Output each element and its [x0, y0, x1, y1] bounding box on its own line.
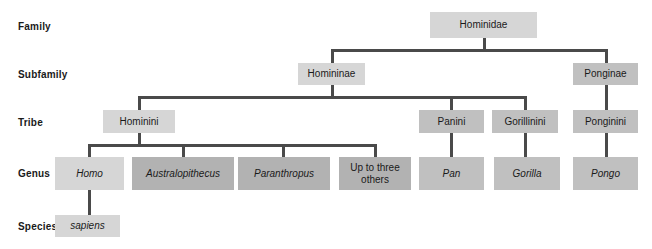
connector-gorillinini-drop — [524, 96, 527, 110]
rank-label-subfamily: Subfamily — [18, 70, 68, 80]
node-pongo[interactable]: Pongo — [573, 157, 638, 190]
node-homo[interactable]: Homo — [55, 157, 124, 190]
node-hominini[interactable]: Hominini — [103, 110, 175, 133]
connector-gorillinini-to-gorilla — [524, 133, 527, 157]
node-gorilla[interactable]: Gorilla — [494, 157, 560, 190]
taxonomy-diagram: Family Subfamily Tribe Genus Species Hom… — [0, 0, 652, 249]
node-sapiens[interactable]: sapiens — [55, 215, 120, 237]
connector-hominini-drop — [138, 96, 141, 110]
rank-label-species: Species — [18, 222, 57, 232]
node-australopithecus[interactable]: Australopithecus — [132, 157, 234, 190]
connector-up-to-three-others-drop — [374, 144, 377, 157]
connector-australopithecus-drop — [182, 144, 185, 157]
node-pan[interactable]: Pan — [419, 157, 484, 190]
node-ponginini[interactable]: Ponginini — [573, 110, 638, 133]
node-ponginae[interactable]: Ponginae — [573, 63, 638, 85]
connector-paranthropus-drop — [282, 144, 285, 157]
node-panini[interactable]: Panini — [419, 110, 484, 133]
connector-panini-to-pan — [450, 133, 453, 157]
connector-homo-to-sapiens — [88, 190, 91, 215]
rank-label-family: Family — [18, 22, 51, 32]
node-up-to-three-others[interactable]: Up to three others — [339, 157, 411, 190]
node-homininae[interactable]: Homininae — [298, 63, 365, 85]
connector-panini-drop — [450, 96, 453, 110]
connector-homo-drop — [88, 144, 91, 157]
connector-subfamily-bus — [331, 49, 608, 52]
node-paranthropus[interactable]: Paranthropus — [238, 157, 330, 190]
rank-label-tribe: Tribe — [18, 118, 43, 128]
connector-ponginini-to-pongo — [605, 133, 608, 157]
connector-genus-bus — [88, 144, 377, 147]
connector-tribe-bus — [138, 96, 527, 99]
connector-ponginae-drop — [605, 49, 608, 63]
connector-homininae-drop — [331, 49, 334, 63]
node-gorillinini[interactable]: Gorillinini — [492, 110, 558, 133]
rank-label-genus: Genus — [18, 169, 50, 179]
node-hominidae[interactable]: Hominidae — [430, 12, 537, 38]
connector-ponginae-to-ponginini — [605, 85, 608, 110]
